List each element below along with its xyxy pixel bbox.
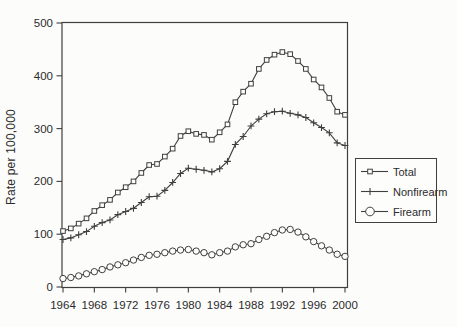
plot-border [62, 23, 348, 288]
circle-marker [99, 266, 105, 272]
circle-marker [209, 252, 215, 258]
legend-label: Total [393, 166, 416, 178]
circle-marker [107, 264, 113, 270]
square-marker [76, 221, 81, 226]
square-marker [210, 137, 215, 142]
line-chart: Rate per 100,000 01002003004005001964196… [0, 0, 457, 327]
square-marker [241, 89, 246, 94]
square-marker [178, 134, 183, 139]
circle-marker [334, 251, 340, 257]
plus-marker [263, 110, 270, 117]
plus-marker [83, 228, 90, 235]
circle-marker [318, 243, 324, 249]
plus-marker [287, 110, 294, 117]
square-marker [311, 77, 316, 82]
square-marker [280, 50, 285, 55]
square-marker [61, 229, 66, 234]
circle-marker [224, 248, 230, 254]
square-marker [264, 58, 269, 63]
circle-marker [216, 249, 222, 255]
series-nonfirearm [60, 108, 349, 243]
plus-marker [193, 166, 200, 173]
plus-marker [295, 111, 302, 118]
square-marker [123, 185, 128, 190]
square-marker [233, 100, 238, 105]
x-tick-label: 1984 [207, 299, 233, 311]
square-marker [202, 133, 207, 138]
y-tick-label: 300 [34, 123, 53, 135]
plus-marker [310, 119, 317, 126]
circle-marker [248, 241, 254, 247]
square-marker [217, 130, 222, 135]
x-tick-label: 1964 [50, 299, 76, 311]
circle-marker [115, 262, 121, 268]
circle-marker [366, 207, 375, 216]
circle-marker [295, 229, 301, 235]
square-marker [186, 129, 191, 134]
circle-marker [271, 229, 277, 235]
circle-marker [287, 226, 293, 232]
circle-marker [83, 271, 89, 277]
square-marker [147, 163, 152, 168]
plus-marker [60, 236, 67, 243]
square-marker [92, 209, 97, 214]
square-marker [327, 96, 332, 101]
circle-marker [91, 268, 97, 274]
circle-marker [130, 257, 136, 263]
y-tick-label: 100 [34, 228, 53, 240]
circle-marker [310, 238, 316, 244]
y-axis: 0100200300400500 [34, 17, 62, 293]
square-marker [131, 179, 136, 184]
circle-marker [122, 260, 128, 266]
x-tick-label: 2000 [332, 299, 358, 311]
x-axis: 1964196819721976198019841988199219962000 [50, 288, 358, 312]
plus-marker [318, 124, 325, 131]
square-marker [288, 52, 293, 57]
circle-marker [303, 234, 309, 240]
legend-label: Nonfirearm [393, 186, 447, 198]
x-tick-label: 1976 [144, 299, 170, 311]
chart: Rate per 100,000 01002003004005001964196… [0, 0, 457, 327]
y-tick-label: 400 [34, 70, 53, 82]
circle-marker [279, 227, 285, 233]
square-marker [249, 81, 254, 86]
plus-marker [75, 231, 82, 238]
square-marker [84, 216, 89, 221]
square-marker [225, 122, 230, 127]
plus-marker [208, 168, 215, 175]
square-marker [257, 67, 262, 72]
y-tick-label: 0 [47, 281, 53, 293]
x-tick-label: 1980 [176, 299, 202, 311]
circle-marker [138, 254, 144, 260]
plus-marker [122, 208, 129, 215]
legend-label: Firearm [393, 206, 431, 218]
circle-marker [177, 247, 183, 253]
circle-marker [342, 253, 348, 259]
circle-marker [185, 246, 191, 252]
plus-marker [114, 211, 121, 218]
circle-marker [263, 233, 269, 239]
plus-marker [302, 114, 309, 121]
square-marker [319, 85, 324, 90]
y-tick-label: 200 [34, 175, 53, 187]
plus-marker [107, 217, 114, 224]
y-axis-title: Rate per 100,000 [4, 109, 18, 205]
circle-marker [60, 275, 66, 281]
x-tick-label: 1992 [270, 299, 296, 311]
circle-marker [232, 244, 238, 250]
circle-marker [68, 274, 74, 280]
plus-marker [67, 234, 74, 241]
square-marker [170, 146, 175, 151]
square-marker [155, 162, 160, 167]
plus-marker [271, 108, 278, 115]
circle-marker [146, 252, 152, 258]
square-marker [116, 190, 121, 195]
circle-marker [169, 248, 175, 254]
circle-marker [75, 273, 81, 279]
circle-marker [240, 242, 246, 248]
square-marker [368, 169, 373, 174]
square-marker [139, 171, 144, 176]
square-marker [100, 203, 105, 208]
legend: TotalNonfirearmFirearm [356, 159, 448, 223]
square-marker [163, 154, 168, 159]
